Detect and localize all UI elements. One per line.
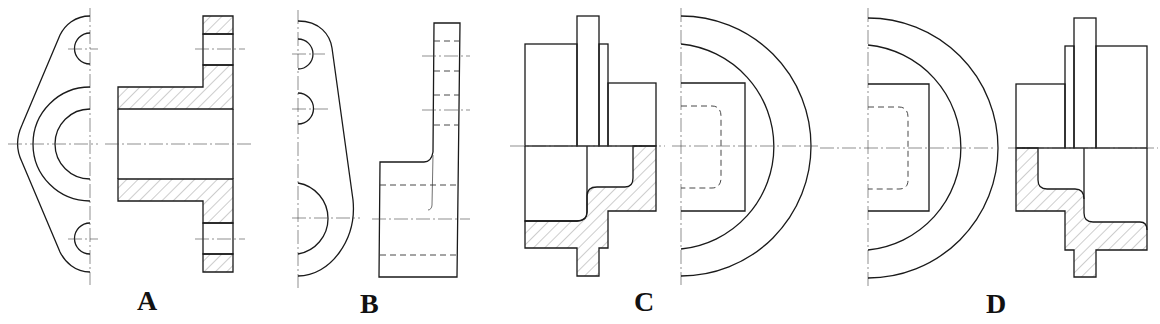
option-d-drawing bbox=[820, 8, 1158, 287]
option-c-end-view bbox=[672, 8, 818, 285]
option-c-label: C bbox=[634, 286, 654, 318]
option-d-label: D bbox=[986, 288, 1006, 320]
option-b-drawing bbox=[292, 10, 470, 288]
option-b-label: B bbox=[360, 288, 379, 320]
drawing-canvas bbox=[0, 0, 1160, 324]
option-b-left-view bbox=[292, 10, 360, 288]
option-d-section-view bbox=[1008, 18, 1158, 277]
option-b-side-view bbox=[372, 23, 470, 277]
option-a-section-view bbox=[105, 16, 252, 272]
option-c-section-view bbox=[510, 16, 665, 276]
option-a-drawing bbox=[8, 8, 252, 285]
option-c-drawing bbox=[510, 8, 818, 285]
option-d-end-view bbox=[820, 8, 998, 287]
option-a-left-view bbox=[8, 8, 98, 285]
option-a-label: A bbox=[137, 285, 157, 317]
